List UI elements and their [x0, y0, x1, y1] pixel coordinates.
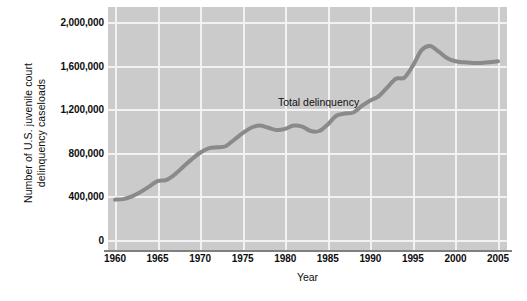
x-axis-tick-label: 1980: [274, 253, 296, 264]
x-axis-tick-label: 1990: [359, 253, 381, 264]
x-axis-tick-label: 1970: [189, 253, 211, 264]
y-axis-tick-label: 400,000: [44, 191, 104, 202]
y-axis-tick-label: 2,000,000: [44, 17, 104, 28]
x-axis-tick-label: 1995: [402, 253, 424, 264]
chart-figure: Number of U.S. juvenile court delinquenc…: [0, 0, 527, 301]
line-path-total-delinquency: [115, 46, 498, 200]
x-axis-title: Year: [108, 271, 507, 283]
series-annotation-total-delinquency: Total delinquency: [278, 96, 359, 108]
y-axis-tick-label: 800,000: [44, 147, 104, 158]
y-axis-tick-label: 1,200,000: [44, 104, 104, 115]
series-total-delinquency: [108, 7, 507, 250]
x-axis-tick-labels: 1960196519701975198019851990199520002005: [108, 253, 507, 269]
x-axis-tick-label: 1975: [232, 253, 254, 264]
x-axis-tick-label: 1965: [147, 253, 169, 264]
x-axis-line: [104, 250, 512, 252]
plot-area: Total delinquency: [108, 7, 507, 250]
x-axis-tick-label: 1985: [317, 253, 339, 264]
y-axis-tick-label: 1,600,000: [44, 60, 104, 71]
x-axis-tick-label: 1960: [104, 253, 126, 264]
y-axis-tick-labels: 0400,000800,0001,200,0001,600,0002,000,0…: [44, 0, 104, 301]
y-axis-tick-label: 0: [44, 235, 104, 246]
x-axis-tick-label: 2005: [487, 253, 509, 264]
x-axis-tick-label: 2000: [445, 253, 467, 264]
